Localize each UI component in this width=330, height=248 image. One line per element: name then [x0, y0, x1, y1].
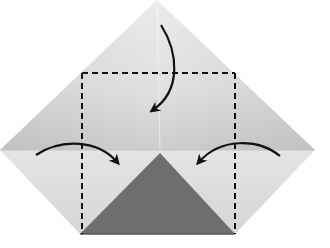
origami-diagram [0, 0, 330, 248]
diagram-canvas [0, 0, 330, 248]
